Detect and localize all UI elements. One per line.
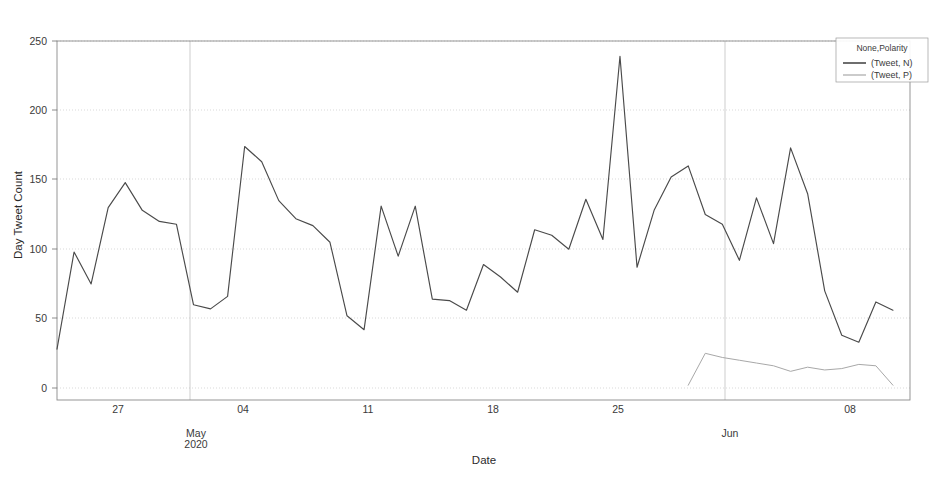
ytick-label-100: 100 [29,243,47,255]
month-label-jun: Jun [722,427,739,439]
legend: None,Polarity (Tweet, N) (Tweet, P) [836,38,928,82]
xtick-label-18: 18 [487,403,499,415]
xtick-label-04: 04 [237,403,249,415]
year-label-2020: 2020 [184,438,208,450]
y-axis-title: Day Tweet Count [12,170,24,259]
xtick-label-08: 08 [844,403,856,415]
legend-title: None,Polarity [856,43,908,53]
xtick-label-25: 25 [612,403,624,415]
x-axis-title: Date [472,454,496,466]
ytick-label-250: 250 [29,35,47,47]
xtick-label-27: 27 [112,403,124,415]
ytick-label-0: 0 [41,382,47,394]
ytick-label-200: 200 [29,104,47,116]
chart-background [0,0,940,483]
chart-container: 250 200 150 100 50 0 Day Tweet Count 27 … [0,0,940,483]
legend-label-tweet-p: (Tweet, P) [871,70,912,80]
line-chart: 250 200 150 100 50 0 Day Tweet Count 27 … [0,0,940,483]
ytick-label-150: 150 [29,173,47,185]
ytick-label-50: 50 [35,312,47,324]
legend-label-tweet-n: (Tweet, N) [871,58,913,68]
xtick-label-11: 11 [363,403,374,415]
